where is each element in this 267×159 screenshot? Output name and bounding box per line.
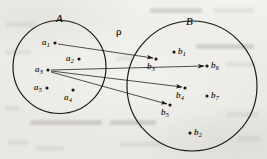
relation-arrow-a3-to-b4: [51, 71, 182, 87]
circle-a: [13, 21, 106, 114]
element-label-b4: b4: [176, 91, 184, 100]
element-dot-b7: [205, 94, 208, 97]
element-dot-b2: [188, 131, 191, 134]
element-dot-a2: [77, 57, 80, 60]
element-label-b1: b1: [178, 47, 186, 56]
element-dot-b1: [172, 50, 175, 53]
element-label-a5: a5: [34, 83, 42, 92]
element-dot-b4: [183, 86, 186, 89]
element-label-b2: b2: [194, 128, 202, 137]
set-a-label: A: [56, 13, 63, 24]
element-dot-a5: [45, 86, 48, 89]
element-label-b5: b5: [161, 108, 169, 117]
element-dot-b6: [205, 64, 208, 67]
element-label-b6: b6: [211, 61, 219, 70]
set-b-label: B: [186, 16, 193, 27]
element-label-a4: a4: [64, 93, 72, 102]
figure-canvas: A B ρ a1a2a3a5a4b3b1b6b4b7b5b2: [0, 0, 267, 159]
element-dot-b5: [168, 103, 171, 106]
element-label-a3: a3: [35, 65, 43, 74]
element-label-a2: a2: [66, 54, 74, 63]
relation-rho-label: ρ: [116, 26, 122, 37]
relation-arrow-a3-to-b6: [51, 66, 204, 70]
element-label-b3: b3: [147, 62, 155, 71]
element-label-a1: a1: [42, 38, 50, 47]
element-label-b7: b7: [211, 91, 219, 100]
element-dot-a4: [71, 88, 74, 91]
element-dot-a1: [53, 41, 56, 44]
element-dot-a3: [46, 68, 49, 71]
relation-diagram-svg: [0, 0, 267, 159]
circle-b: [127, 21, 257, 151]
element-dot-b3: [154, 57, 157, 60]
